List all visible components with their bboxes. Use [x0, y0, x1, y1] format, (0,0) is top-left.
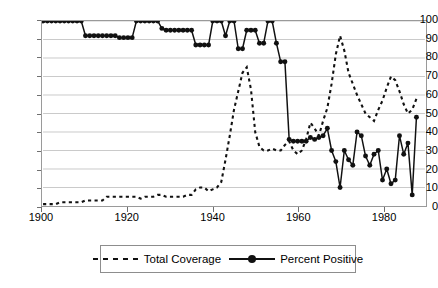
y-tick-label-80: 80: [404, 51, 438, 62]
y-tick-label-50: 50: [404, 108, 438, 119]
x-tick-label-1980: 1980: [354, 212, 414, 223]
y-tick-label-10: 10: [404, 182, 438, 193]
plot-area: [41, 20, 427, 207]
y-tick-label-70: 70: [404, 70, 438, 81]
x-tick-mark-1960: [298, 207, 299, 212]
y-tick-mark-80: [37, 57, 41, 58]
legend-item-percent-positive: Percent Positive: [229, 253, 363, 265]
x-tick-label-1940: 1940: [183, 212, 243, 223]
y-tick-label-30: 30: [404, 145, 438, 156]
y-tick-mark-50: [37, 114, 41, 115]
x-tick-mark-1900: [41, 207, 42, 212]
x-tick-label-1900: 1900: [11, 212, 71, 223]
y-tick-label-100: 100: [404, 14, 438, 25]
chart-legend: Total Coverage Percent Positive: [100, 245, 356, 273]
legend-item-total-coverage: Total Coverage: [93, 253, 221, 265]
y-tick-mark-20: [37, 170, 41, 171]
y-tick-label-0: 0: [404, 201, 438, 212]
x-tick-label-1920: 1920: [97, 212, 157, 223]
legend-label-total-coverage: Total Coverage: [144, 253, 221, 265]
y-tick-mark-100: [37, 20, 41, 21]
series-percent-positive: [42, 21, 419, 197]
y-tick-label-40: 40: [404, 126, 438, 137]
y-tick-label-60: 60: [404, 89, 438, 100]
y-tick-label-20: 20: [404, 164, 438, 175]
solid-line-marker-swatch-icon: [229, 254, 275, 264]
x-tick-mark-1980: [384, 207, 385, 212]
y-tick-mark-60: [37, 95, 41, 96]
y-tick-mark-90: [37, 39, 41, 40]
y-tick-mark-70: [37, 76, 41, 77]
x-tick-label-1960: 1960: [268, 212, 328, 223]
x-tick-mark-1940: [213, 207, 214, 212]
y-tick-mark-10: [37, 188, 41, 189]
dashed-line-swatch-icon: [93, 254, 139, 264]
chart-figure: Total Coverage Percent Positive 01020304…: [0, 0, 438, 288]
series-total-coverage: [43, 36, 416, 204]
y-tick-mark-40: [37, 132, 41, 133]
legend-label-percent-positive: Percent Positive: [280, 253, 363, 265]
y-tick-mark-30: [37, 151, 41, 152]
series-lines: [42, 21, 426, 206]
x-tick-mark-1920: [127, 207, 128, 212]
y-tick-label-90: 90: [404, 33, 438, 44]
